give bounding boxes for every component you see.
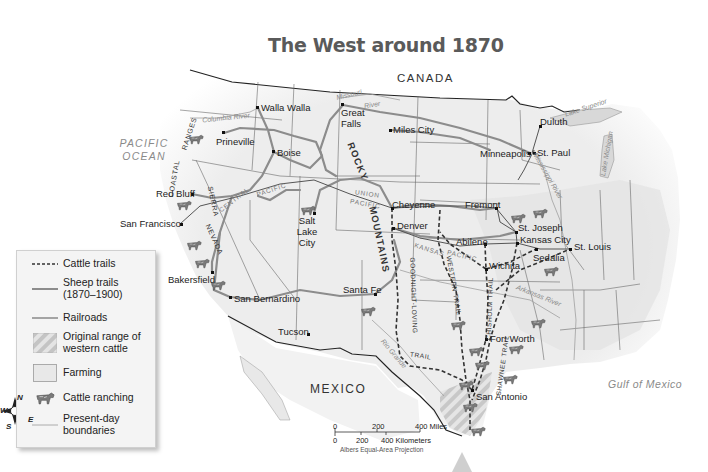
legend-present-day-boundaries: Present-day boundaries [17, 413, 155, 436]
legend-original-range: Original range of western cattle [17, 331, 155, 354]
city-fremont: Fremont [465, 199, 500, 210]
city-fort-worth: Fort Worth [490, 333, 535, 344]
city-minneapolis: Minneapolis [480, 148, 531, 159]
legend-sheep-trails: Sheep trails (1870–1900) [17, 277, 155, 300]
legend-railroads: Railroads [17, 311, 155, 325]
thin-line-icon [32, 311, 58, 325]
scale-miles-0: 0 [333, 421, 337, 432]
compass-w: W [0, 405, 8, 416]
light-line-icon [32, 418, 58, 432]
city-miles-city: Miles City [393, 124, 434, 135]
scale-km-400: 400 Kilometers [381, 435, 431, 446]
hatched-box-icon [32, 332, 58, 354]
pointer-shape [452, 452, 472, 472]
compass-s: S [6, 421, 11, 432]
projection-note: Albers Equal-Area Projection [340, 446, 423, 453]
city-boise: Boise [277, 147, 301, 158]
city-cheyenne: Cheyenne [392, 199, 435, 210]
city-st-louis: St. Louis [574, 241, 611, 252]
label-pacific: PACIFIC [114, 137, 174, 150]
city-great-falls: Great Falls [341, 107, 371, 129]
city-san-bernardino: San Bernardino [234, 293, 300, 304]
label-gulf-of-mexico: Gulf of Mexico [608, 378, 682, 391]
city-santa-fe: Santa Fe [343, 284, 382, 295]
map-title: The West around 1870 [268, 34, 504, 56]
scale-miles-400: 400 Miles [415, 421, 447, 432]
legend-cattle-ranching: Cattle ranching [17, 391, 155, 405]
city-st-joseph: St. Joseph [518, 222, 563, 233]
map-legend: Cattle trails Sheep trails (1870–1900) R… [16, 250, 156, 448]
city-abilene: Abilene [456, 236, 488, 247]
city-sedalia: Sedalia [533, 252, 565, 263]
city-st-paul: St. Paul [537, 147, 570, 158]
city-san-francisco: San Francisco [120, 218, 181, 229]
cow-icon [32, 391, 58, 405]
city-walla-walla: Walla Walla [261, 102, 310, 113]
city-bakersfield: Bakersfield [168, 274, 215, 285]
legend-farming: Farming [17, 363, 155, 383]
legend-cattle-trails: Cattle trails [17, 257, 155, 271]
city-duluth: Duluth [540, 116, 567, 127]
label-ocean: OCEAN [114, 150, 174, 163]
city-kansas-city: Kansas City [520, 234, 571, 245]
city-denver: Denver [397, 220, 428, 231]
scale-km-200: 200 [356, 435, 369, 446]
label-mexico: MEXICO [310, 382, 366, 396]
city-prineville: Prineville [216, 136, 255, 147]
dashed-line-icon [32, 257, 58, 271]
scale-km-0: 0 [333, 435, 337, 446]
label-canada: CANADA [397, 72, 454, 84]
city-tucson: Tucson [278, 326, 309, 337]
gray-line-icon [32, 282, 58, 296]
light-box-icon [32, 363, 58, 383]
scale-miles-200: 200 [372, 421, 385, 432]
city-wichita: Wichita [489, 260, 520, 271]
compass-e: E [28, 414, 33, 425]
compass-n: N [17, 392, 23, 403]
label-pacific-ocean: PACIFIC OCEAN [114, 137, 174, 163]
city-salt-lake-city: Salt Lake City [296, 215, 318, 248]
